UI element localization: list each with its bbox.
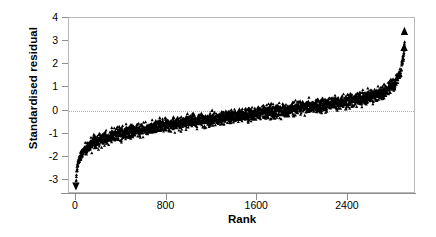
x-tick-label: 800 bbox=[136, 199, 196, 211]
outlier-marker bbox=[401, 27, 408, 35]
y-tick-label: 3 bbox=[12, 34, 58, 46]
x-axis-line bbox=[61, 193, 416, 194]
y-tick-label: -2 bbox=[12, 150, 58, 162]
outlier-markers bbox=[72, 27, 408, 191]
residual-point-cloud bbox=[74, 40, 406, 186]
outlier-marker bbox=[72, 182, 79, 190]
x-tick-label: 0 bbox=[45, 199, 105, 211]
outlier-marker bbox=[400, 43, 407, 51]
y-tick-label: 4 bbox=[12, 11, 58, 23]
y-tick-label: -1 bbox=[12, 127, 58, 139]
x-tick-label: 2400 bbox=[317, 199, 377, 211]
y-tick-label: -3 bbox=[12, 173, 58, 185]
residual-scatter-band bbox=[69, 18, 415, 193]
y-tick-label: 0 bbox=[12, 104, 58, 116]
chart-figure: Standardised residual 43210-1-2-3 080016… bbox=[0, 0, 436, 237]
data-points bbox=[74, 40, 406, 186]
y-tick-label: 1 bbox=[12, 80, 58, 92]
x-axis-title: Rank bbox=[68, 213, 416, 225]
x-tick-label: 1600 bbox=[226, 199, 286, 211]
y-tick-label: 2 bbox=[12, 57, 58, 69]
plot-area bbox=[68, 17, 415, 193]
